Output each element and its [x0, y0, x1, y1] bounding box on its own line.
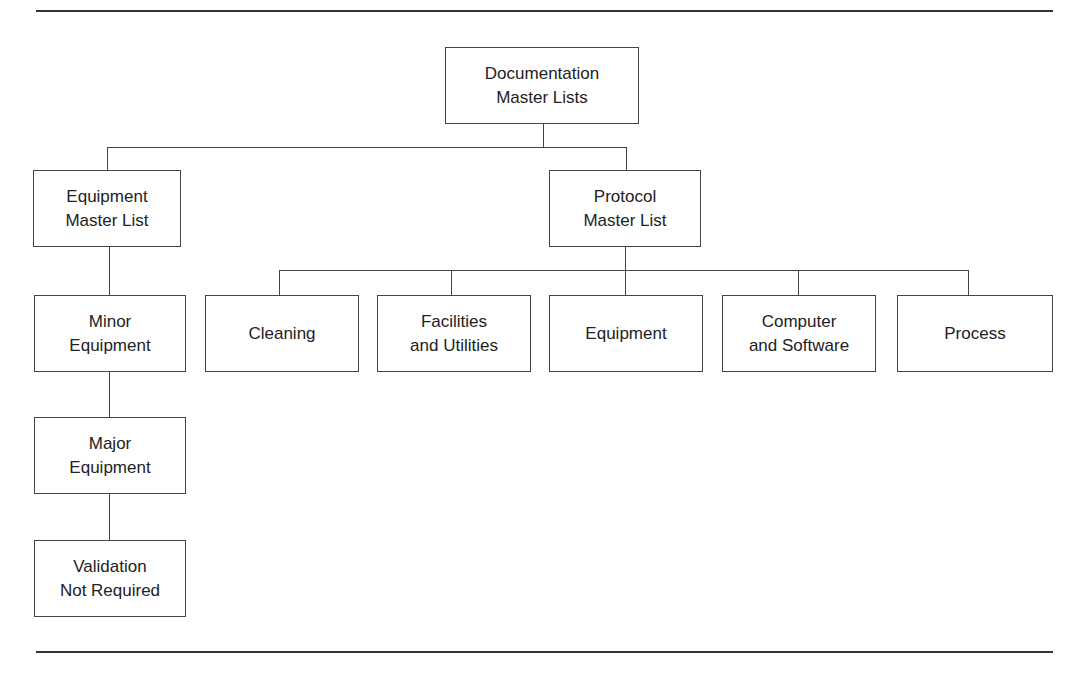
- node-documentation-master-lists: Documentation Master Lists: [445, 47, 639, 124]
- node-process: Process: [897, 295, 1053, 372]
- node-label: Equipment: [585, 322, 666, 346]
- node-label: Computer and Software: [749, 310, 849, 358]
- node-protocol-master-list: Protocol Master List: [549, 170, 701, 247]
- connector: [543, 124, 544, 147]
- node-validation-not-required: Validation Not Required: [34, 540, 186, 617]
- connector: [451, 270, 452, 295]
- node-label: Validation Not Required: [60, 555, 160, 603]
- node-label: Documentation Master Lists: [485, 62, 599, 110]
- connector: [109, 494, 110, 540]
- node-equipment: Equipment: [549, 295, 703, 372]
- node-minor-equipment: Minor Equipment: [34, 295, 186, 372]
- connector: [107, 147, 108, 170]
- node-label: Facilities and Utilities: [410, 310, 498, 358]
- node-label: Minor Equipment: [69, 310, 150, 358]
- node-facilities-and-utilities: Facilities and Utilities: [377, 295, 531, 372]
- connector: [625, 270, 626, 295]
- connector: [109, 371, 110, 417]
- node-computer-and-software: Computer and Software: [722, 295, 876, 372]
- node-major-equipment: Major Equipment: [34, 417, 186, 494]
- connector: [625, 247, 626, 270]
- node-label: Protocol Master List: [583, 185, 666, 233]
- connector: [798, 270, 799, 295]
- node-equipment-master-list: Equipment Master List: [33, 170, 181, 247]
- connector: [279, 270, 969, 271]
- connector: [968, 270, 969, 295]
- bottom-rule: [36, 651, 1053, 653]
- connector: [279, 270, 280, 295]
- node-label: Equipment Master List: [65, 185, 148, 233]
- node-label: Cleaning: [248, 322, 315, 346]
- connector: [109, 247, 110, 295]
- connector: [626, 147, 627, 170]
- top-rule: [36, 10, 1053, 12]
- connector: [107, 147, 627, 148]
- node-label: Major Equipment: [69, 432, 150, 480]
- node-cleaning: Cleaning: [205, 295, 359, 372]
- node-label: Process: [944, 322, 1005, 346]
